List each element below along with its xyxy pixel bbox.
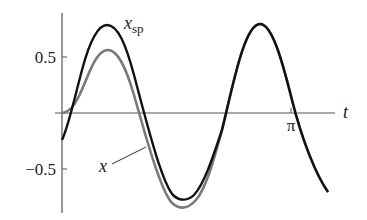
x-tick-label-pi: π (287, 116, 296, 135)
x-axis-label: t (343, 102, 349, 122)
x-label: x (98, 156, 107, 176)
x-leader-line (112, 147, 146, 164)
xsp-label: xsp (123, 13, 144, 36)
chart: 0.5 −0.5 π t xsp x (0, 0, 367, 220)
y-tick-label-neg: −0.5 (25, 160, 56, 179)
y-tick-label-pos: 0.5 (35, 48, 56, 67)
